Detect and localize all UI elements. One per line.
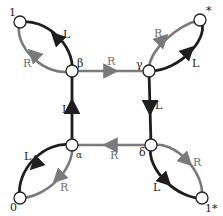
node-label-zero: 0 [10, 201, 17, 214]
loopstar-label-R: R [154, 27, 163, 40]
edge-label-beta-gamma: R [107, 55, 116, 68]
node-gamma [143, 65, 155, 77]
edge-label-gamma-delta: L [155, 99, 163, 112]
node-label-onestar: 1* [205, 202, 218, 215]
loop0-label-R: R [60, 181, 69, 194]
node-label-gamma: γ [136, 58, 143, 71]
node-delta [145, 139, 157, 151]
loop1star-label-L: L [153, 181, 161, 194]
node-star [194, 14, 206, 26]
node-label-alpha: α [76, 150, 82, 160]
loop1-label-L: L [63, 28, 71, 41]
edge-gamma-delta [149, 71, 151, 145]
edge-label-alpha-beta: L [62, 103, 70, 116]
loopstar-label-L: L [192, 57, 200, 70]
arrow-icon [35, 162, 38, 165]
loop1-label-R: R [23, 57, 32, 70]
node-label-delta: δ [139, 146, 146, 159]
loop0-label-L: L [24, 150, 32, 163]
node-label-beta: β [77, 57, 83, 70]
node-label-one: 1 [9, 6, 16, 19]
state-diagram: 1 β γ * α δ 0 1* R L R L L R R L L R R L [0, 0, 223, 216]
node-label-star: * [206, 4, 212, 17]
edge-label-delta-alpha: R [110, 149, 119, 162]
loop1star-label-R: R [193, 156, 202, 169]
